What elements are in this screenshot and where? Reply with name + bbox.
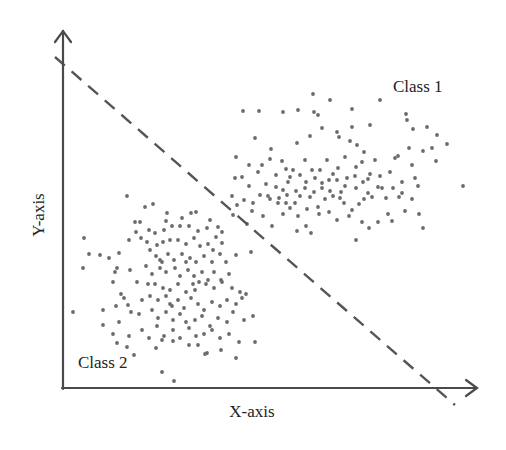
data-point	[250, 209, 254, 213]
data-point	[178, 274, 182, 278]
data-point	[242, 198, 246, 202]
class-1-label: Class 1	[393, 77, 443, 96]
data-point	[407, 146, 411, 150]
data-point	[277, 196, 281, 200]
data-point	[320, 186, 324, 190]
data-point	[132, 353, 136, 357]
data-point	[421, 149, 425, 153]
data-point	[257, 109, 261, 113]
y-axis-label: Y-axis	[29, 193, 48, 236]
data-point	[156, 316, 160, 320]
data-point	[421, 226, 425, 230]
data-point	[411, 127, 415, 131]
x-axis-label: X-axis	[229, 402, 274, 421]
data-point	[296, 108, 300, 112]
data-point	[140, 328, 144, 332]
data-point	[231, 213, 235, 217]
data-point	[138, 220, 142, 224]
data-point	[154, 254, 158, 258]
data-point	[214, 235, 218, 239]
data-point	[81, 266, 85, 270]
data-point	[168, 288, 172, 292]
data-point	[388, 170, 392, 174]
data-point	[111, 332, 115, 336]
data-point	[253, 340, 257, 344]
data-point	[150, 308, 154, 312]
data-point	[416, 184, 420, 188]
data-point	[148, 248, 152, 252]
data-point	[164, 294, 168, 298]
data-point	[164, 310, 168, 314]
data-point	[202, 308, 206, 312]
data-point	[316, 113, 320, 117]
data-point	[113, 270, 117, 274]
data-point	[288, 175, 292, 179]
data-point	[256, 170, 260, 174]
data-point	[435, 133, 439, 137]
data-point	[220, 241, 224, 245]
data-point	[206, 242, 210, 246]
data-point	[353, 174, 357, 178]
data-point	[311, 92, 315, 96]
data-point	[362, 150, 366, 154]
data-point	[140, 298, 144, 302]
data-point	[294, 189, 298, 193]
data-point	[362, 197, 366, 201]
data-point	[117, 251, 121, 255]
data-point	[366, 177, 370, 181]
data-point	[247, 163, 251, 167]
data-point	[219, 348, 223, 352]
data-point	[216, 225, 220, 229]
data-point	[203, 352, 207, 356]
data-point	[146, 282, 150, 286]
data-point	[368, 172, 372, 176]
data-point	[328, 98, 332, 102]
data-point	[360, 220, 364, 224]
data-point	[240, 296, 244, 300]
data-point	[298, 194, 302, 198]
data-point	[125, 345, 129, 349]
data-point	[269, 147, 273, 151]
data-point	[233, 176, 237, 180]
data-point	[284, 201, 288, 205]
data-point	[378, 174, 382, 178]
data-point	[247, 184, 251, 188]
data-point	[202, 254, 206, 258]
data-point	[172, 379, 176, 383]
data-point	[212, 286, 216, 290]
data-point	[403, 209, 407, 213]
data-point	[225, 320, 229, 324]
data-point	[139, 236, 143, 240]
data-point	[361, 180, 365, 184]
data-point	[230, 286, 234, 290]
data-point	[261, 214, 265, 218]
series-class-1	[230, 92, 465, 242]
data-point	[417, 212, 421, 216]
data-point	[350, 208, 354, 212]
data-point	[197, 280, 201, 284]
data-point	[206, 278, 210, 282]
data-point	[347, 214, 351, 218]
data-point	[345, 176, 349, 180]
data-point	[225, 298, 229, 302]
data-point	[98, 253, 102, 257]
data-point	[114, 304, 118, 308]
data-point	[117, 320, 121, 324]
class-2-label: Class 2	[78, 353, 128, 372]
data-point	[208, 324, 212, 328]
data-point	[335, 178, 339, 182]
data-point	[196, 343, 200, 347]
data-point	[205, 226, 209, 230]
data-point	[335, 218, 339, 222]
data-point	[210, 260, 214, 264]
data-point	[156, 298, 160, 302]
data-point	[355, 143, 359, 147]
data-point	[303, 186, 307, 190]
data-point	[176, 282, 180, 286]
data-point	[127, 334, 131, 338]
data-point	[180, 216, 184, 220]
data-point	[274, 185, 278, 189]
data-point	[280, 159, 284, 163]
data-point	[249, 250, 253, 254]
data-point	[184, 242, 188, 246]
